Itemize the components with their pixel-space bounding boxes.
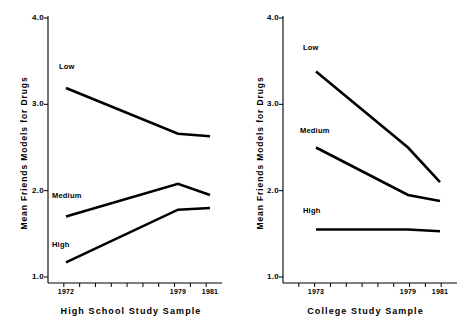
series-label-medium: Medium <box>300 126 330 135</box>
y-tick-label: 4.0 <box>20 13 44 22</box>
y-tick-label: 2.0 <box>20 186 44 195</box>
chart-panel-high-school: Mean Friends Models for Drugs 1.02.03.04… <box>0 0 232 333</box>
series-label-high: High <box>303 206 320 215</box>
figure-root: Mean Friends Models for Drugs 1.02.03.04… <box>0 0 465 333</box>
x-tick-label: 1981 <box>423 288 457 295</box>
data-line-medium <box>66 184 210 217</box>
series-label-medium: Medium <box>52 191 82 200</box>
series-label-low: Low <box>59 62 75 71</box>
y-tick-label: 3.0 <box>20 99 44 108</box>
x-tick-label: 1972 <box>49 288 83 295</box>
y-tick-label: 1.0 <box>255 272 279 281</box>
y-axis-ticks <box>279 18 283 277</box>
data-line-high <box>316 230 440 232</box>
data-line-low <box>316 72 440 183</box>
y-tick-label: 1.0 <box>20 272 44 281</box>
data-line-high <box>66 208 210 262</box>
x-axis-title: College Study Sample <box>273 306 458 316</box>
data-series-group <box>66 88 210 262</box>
y-tick-label: 4.0 <box>255 13 279 22</box>
plot-area-college <box>233 0 465 333</box>
x-tick-label: 1979 <box>161 288 195 295</box>
data-line-low <box>66 88 210 136</box>
x-axis-title: High School Study Sample <box>36 306 226 316</box>
data-series-group <box>316 72 440 232</box>
y-tick-label: 3.0 <box>255 99 279 108</box>
x-tick-label: 1973 <box>299 288 333 295</box>
x-axis-ticks <box>64 283 206 287</box>
x-tick-label: 1979 <box>391 288 425 295</box>
plot-area-high-school <box>0 0 232 333</box>
x-tick-label: 1981 <box>193 288 227 295</box>
x-axis-ticks <box>299 283 441 287</box>
y-tick-label: 2.0 <box>255 186 279 195</box>
data-line-medium <box>316 148 440 202</box>
y-axis-ticks <box>44 18 48 277</box>
series-label-high: High <box>52 240 69 249</box>
chart-panel-college: Mean Friends Models for Drugs 1.02.03.04… <box>233 0 465 333</box>
series-label-low: Low <box>303 43 319 52</box>
